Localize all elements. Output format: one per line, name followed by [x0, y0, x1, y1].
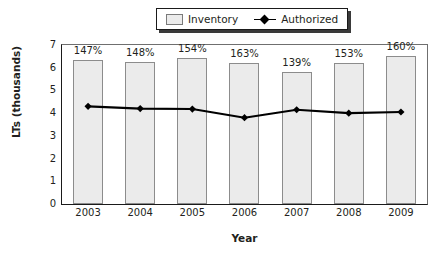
inventory-bar [73, 60, 103, 204]
chart-column: 153% [323, 45, 375, 204]
legend-entry-authorized: Authorized [254, 14, 338, 25]
x-axis-tick-label: 2006 [232, 208, 257, 218]
chart-column: 154% [166, 45, 218, 204]
y-axis-tick-label: 0 [42, 199, 56, 209]
legend-entry-inventory: Inventory [166, 14, 238, 25]
inventory-bar [177, 58, 207, 205]
bar-value-label: 153% [334, 49, 363, 59]
y-axis-tick-label: 4 [42, 108, 56, 118]
chart-legend: Inventory Authorized [156, 8, 348, 30]
x-axis-tick-label: 2008 [336, 208, 361, 218]
x-axis-tick-label: 2005 [180, 208, 205, 218]
bar-value-label: 148% [126, 48, 155, 58]
inventory-bar [229, 63, 259, 204]
chart-column: 147% [62, 45, 114, 204]
inventory-bar [125, 62, 155, 204]
bar-value-label: 163% [230, 49, 259, 59]
inventory-bar [334, 63, 364, 204]
x-axis-tick-labels: 2003200420052006200720082009 [62, 208, 427, 222]
bar-value-label: 154% [178, 44, 207, 54]
x-axis-tick-label: 2003 [75, 208, 100, 218]
x-axis-tick-label: 2007 [284, 208, 309, 218]
y-axis-title: LTs (thousands) [10, 32, 22, 152]
chart-column: 139% [271, 45, 323, 204]
inventory-bar [282, 72, 312, 204]
plot-area: 147%148%154%163%139%153%160% [62, 45, 427, 204]
chart-column: 160% [375, 45, 427, 204]
y-axis-tick-labels: 76543210 [40, 44, 56, 205]
x-axis-tick-label: 2009 [388, 208, 413, 218]
y-axis-tick-label: 2 [42, 154, 56, 164]
x-axis-tick-label: 2004 [127, 208, 152, 218]
bar-value-label: 147% [74, 46, 103, 56]
y-axis-tick-label: 5 [42, 85, 56, 95]
bar-value-label: 139% [282, 58, 311, 68]
combo-bar-line-chart: Inventory Authorized LTs (thousands) 765… [0, 0, 448, 253]
inventory-bar [386, 56, 416, 204]
y-axis-tick-label: 6 [42, 63, 56, 73]
legend-label-authorized: Authorized [281, 14, 338, 25]
y-axis-tick-label: 1 [42, 176, 56, 186]
y-axis-tick-label: 7 [42, 40, 56, 50]
y-axis-tick-label: 3 [42, 131, 56, 141]
line-diamond-icon [254, 14, 276, 25]
chart-column: 148% [114, 45, 166, 204]
bar-value-label: 160% [387, 42, 416, 52]
chart-column: 163% [218, 45, 270, 204]
legend-label-inventory: Inventory [188, 14, 238, 25]
bar-swatch-icon [166, 14, 183, 25]
x-axis-title: Year [62, 232, 427, 244]
